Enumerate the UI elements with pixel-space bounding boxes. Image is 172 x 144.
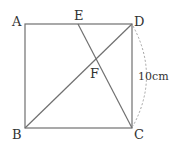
side-length-label: 10cm <box>138 70 169 83</box>
diagonal-bd <box>25 24 132 128</box>
label-a: A <box>11 14 22 29</box>
label-f: F <box>90 66 99 81</box>
label-b: B <box>12 127 22 142</box>
geometry-figure: A E D F B C 10cm <box>0 0 172 144</box>
segment-ec <box>78 24 132 128</box>
label-d: D <box>134 14 144 29</box>
label-c: C <box>134 127 144 142</box>
label-e: E <box>74 8 84 23</box>
